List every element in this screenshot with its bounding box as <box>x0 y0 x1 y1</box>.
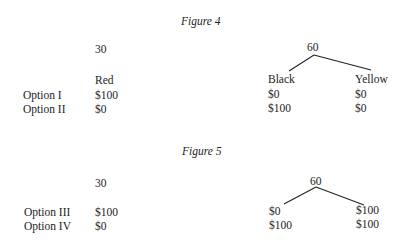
fig5-cell: $0 <box>95 220 107 233</box>
fig4-urn-left-count: 30 <box>95 43 107 56</box>
fig4-branch-right <box>314 55 371 70</box>
fig5-cell: $100 <box>356 218 379 231</box>
fig4-cell: $100 <box>95 89 118 102</box>
fig4-cell: $100 <box>268 102 291 115</box>
fig4-row-label: Option II <box>23 103 65 116</box>
fig5-cell: $0 <box>269 205 281 218</box>
fig4-header-black: Black <box>268 73 295 86</box>
fig5-row-label: Option IV <box>24 220 71 233</box>
fig4-cell: $0 <box>355 102 367 115</box>
fig5-cell: $100 <box>95 206 118 219</box>
fig5-urn-left-count: 30 <box>95 177 107 190</box>
fig5-cell: $100 <box>269 219 292 232</box>
figure-5-caption: Figure 5 <box>182 145 222 158</box>
fig5-row-label: Option III <box>24 206 70 219</box>
fig4-header-yellow: Yellow <box>355 73 388 86</box>
fig5-branch-left <box>284 187 316 204</box>
fig5-cell: $100 <box>356 204 379 217</box>
fig5-branch-right <box>316 187 364 205</box>
fig5-urn-right-count: 60 <box>310 175 322 188</box>
fig4-branch-left <box>289 55 314 71</box>
fig4-row-label: Option I <box>23 89 62 102</box>
fig4-urn-right-count: 60 <box>307 41 319 54</box>
figure-4-caption: Figure 4 <box>181 15 221 28</box>
fig4-cell: $0 <box>355 88 367 101</box>
fig4-header-red: Red <box>95 74 114 87</box>
fig4-cell: $0 <box>268 88 280 101</box>
fig4-cell: $0 <box>95 103 107 116</box>
